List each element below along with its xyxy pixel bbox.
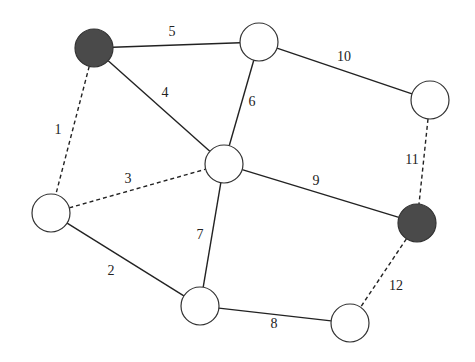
nodes-layer (32, 23, 449, 342)
edge-label: 11 (405, 152, 418, 167)
edge-label: 1 (55, 122, 62, 137)
edge-5 (113, 43, 240, 48)
edge-label: 3 (125, 171, 132, 186)
edge-2 (67, 223, 184, 296)
graph-svg: 123456789101112 (0, 0, 475, 362)
filled-node (75, 29, 113, 67)
empty-node (181, 287, 219, 325)
edge-label: 2 (108, 263, 115, 278)
empty-node (32, 194, 70, 232)
edge-label: 9 (313, 173, 320, 188)
edge-7 (203, 183, 221, 288)
edge-9 (242, 170, 399, 218)
edge-label: 12 (389, 278, 403, 293)
graph-diagram: 123456789101112 (0, 0, 475, 362)
edge-11 (419, 119, 428, 204)
edge-label: 4 (162, 85, 169, 100)
edge-label: 7 (197, 227, 204, 242)
edge-label: 5 (169, 24, 176, 39)
edges-layer (56, 43, 428, 321)
empty-node (411, 81, 449, 119)
empty-node (240, 23, 278, 61)
edge-4 (108, 61, 210, 152)
edge-label: 6 (249, 94, 256, 109)
filled-node (398, 204, 436, 242)
edge-3 (69, 169, 205, 208)
empty-node (205, 145, 243, 183)
empty-node (331, 304, 369, 342)
edge-12 (361, 239, 407, 307)
edge-label: 8 (271, 316, 278, 331)
edge-label: 10 (337, 49, 351, 64)
